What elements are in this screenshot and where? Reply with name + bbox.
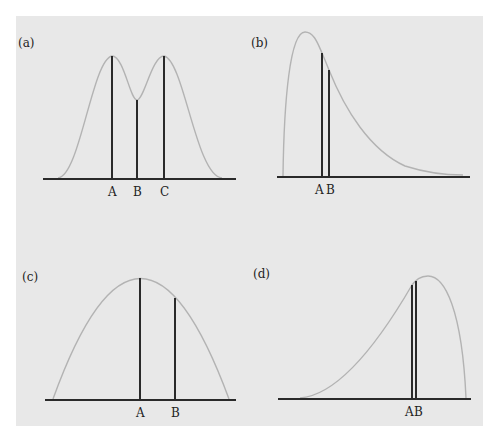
- panel-b: (b) A B: [251, 32, 470, 197]
- point-label-a: A: [107, 185, 117, 199]
- point-label-a: A: [135, 406, 145, 420]
- point-label-a: A: [314, 183, 324, 197]
- panel-a: (a) A B C: [18, 36, 236, 199]
- panel-label-b: (b): [251, 36, 268, 50]
- point-label-b: B: [326, 183, 335, 197]
- point-label-c: C: [160, 185, 169, 199]
- distribution-figure: (a) A B C (b) A B (c) A B (d) A B: [0, 0, 498, 442]
- bimodal-curve: [58, 56, 222, 178]
- panel-label-d: (d): [253, 267, 270, 281]
- panel-c: (c) A B: [22, 270, 236, 420]
- right-skewed-curve: [283, 32, 463, 176]
- point-label-b: B: [133, 185, 142, 199]
- panel-label-a: (a): [18, 36, 35, 50]
- point-label-a: A: [404, 405, 414, 419]
- left-skewed-curve: [300, 276, 466, 398]
- point-label-b: B: [171, 406, 180, 420]
- panel-d: (d) A B: [253, 267, 471, 419]
- panel-label-c: (c): [22, 270, 38, 284]
- point-label-b: B: [414, 405, 423, 419]
